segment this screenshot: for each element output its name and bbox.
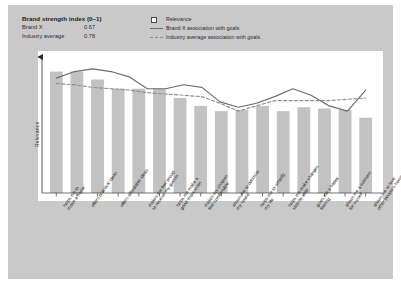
legend-dashed-line-icon <box>150 37 163 38</box>
index-row-industry-average: Industry average 0.78 <box>22 32 142 41</box>
chart-board: Brand strength index (0–1) Brand X 0.67 … <box>8 5 393 279</box>
brand-strength-index-block: Brand strength index (0–1) Brand X 0.67 … <box>22 14 142 40</box>
bar <box>71 72 84 193</box>
index-row-label: Brand X <box>22 24 43 30</box>
bar <box>236 110 249 193</box>
x-axis-tick-label-text: allows me to love other people's homes <box>372 205 381 211</box>
x-axis-tick-label-text: gives me a happy feeling <box>315 205 324 211</box>
bar <box>318 109 331 193</box>
plot-area: Relevance <box>38 51 383 201</box>
legend-item-label: Industry average association with goals <box>166 34 260 40</box>
x-axis-tick-label-text: allows me a moment for myself <box>344 205 353 211</box>
bar <box>256 106 269 193</box>
y-axis-label: Relevance <box>34 122 40 147</box>
x-axis-tick-label-text: helps me to make a home <box>62 205 71 211</box>
x-axis-tick-label-text: helps me to simplify my life <box>259 205 268 211</box>
bar <box>153 89 166 193</box>
bar <box>91 79 104 193</box>
chart-legend: Relevance Brand X association with goals… <box>149 15 379 42</box>
legend-item-brand-x-association: Brand X association with goals <box>149 24 379 33</box>
bar-series <box>50 72 372 193</box>
x-axis-tick-labels: helps me to make a homeoffers practical … <box>38 205 383 285</box>
x-axis-tick-label-text: allows me to optimize my space <box>231 205 240 211</box>
x-axis-tick-label-text: offers practical ideas <box>90 205 94 208</box>
index-row-label: Industry average <box>22 33 64 39</box>
x-axis-tick-label-text: makes me feel proud to receive my guests <box>147 205 156 211</box>
x-axis-tick-label-text: makes my children feel comfortable <box>203 205 212 211</box>
index-title: Brand strength index (0–1) <box>22 14 142 23</box>
legend-item-label: Relevance <box>166 16 191 22</box>
x-axis-tick-label-text: helps me make changes step by step <box>287 205 296 211</box>
legend-box-swatch-icon <box>151 17 157 23</box>
bar <box>50 72 63 193</box>
bar <box>339 110 352 193</box>
legend-item-industry-average-association: Industry average association with goals <box>149 33 379 42</box>
chart-screenshot: Brand strength index (0–1) Brand X 0.67 … <box>0 0 401 287</box>
index-row-value: 0.67 <box>84 23 95 32</box>
chart-header: Brand strength index (0–1) Brand X 0.67 … <box>22 14 382 48</box>
x-axis-tick-label-text: offers affordable ideas <box>119 205 123 208</box>
legend-solid-line-icon <box>150 28 163 29</box>
chart-canvas <box>38 51 383 201</box>
legend-item-relevance: Relevance <box>149 15 379 24</box>
index-row-value: 0.78 <box>84 32 95 41</box>
legend-item-label: Brand X association with goals <box>166 25 239 31</box>
x-axis-tick-label-text: helps me make a good impression <box>175 205 184 211</box>
index-row-brand-x: Brand X 0.67 <box>22 23 142 32</box>
